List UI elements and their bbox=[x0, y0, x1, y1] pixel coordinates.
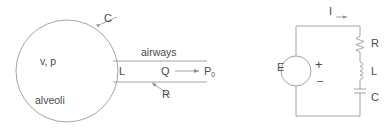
inductor-label: L bbox=[371, 66, 377, 77]
voltage-source-symbol bbox=[281, 56, 311, 86]
inductor-symbol bbox=[360, 62, 363, 80]
source-minus-label: – bbox=[317, 75, 323, 86]
resistor-label: R bbox=[371, 38, 379, 49]
resistor-symbol bbox=[356, 36, 364, 52]
alveoli-compartment bbox=[16, 20, 118, 122]
source-plus-label: + bbox=[315, 58, 323, 71]
mouth-pressure-label: P0 bbox=[204, 66, 215, 77]
source-label: E bbox=[277, 62, 284, 73]
diagram-svg bbox=[0, 0, 388, 132]
mouth-pressure-subscript: 0 bbox=[211, 71, 215, 78]
inertance-label: L bbox=[119, 66, 125, 77]
airway-resistance-label: R bbox=[162, 89, 170, 100]
current-label: I bbox=[329, 6, 332, 17]
figure-canvas: C v, p alveoli airways L Q R P0 I E + – … bbox=[0, 0, 388, 132]
capacitor-label: C bbox=[371, 92, 379, 103]
flow-label: Q bbox=[161, 66, 170, 77]
compliance-label: C bbox=[104, 13, 112, 24]
volume-pressure-label: v, p bbox=[40, 56, 56, 67]
alveoli-label: alveoli bbox=[35, 95, 65, 106]
airways-label: airways bbox=[141, 47, 177, 58]
